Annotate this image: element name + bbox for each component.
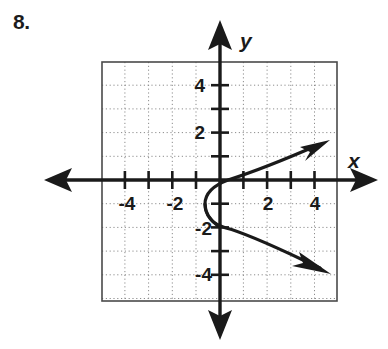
y-axis-label: y — [239, 29, 253, 52]
coordinate-plane-svg: y x -4 -2 2 4 4 2 -2 -4 — [0, 0, 388, 349]
problem-number: 8. — [13, 10, 30, 34]
y-tick-label-2: 2 — [194, 122, 205, 143]
x-tick-label-neg4: -4 — [119, 193, 136, 214]
curve-arrow-lower — [292, 252, 331, 274]
x-tick-label-2: 2 — [263, 193, 274, 214]
graph-figure: 8. — [0, 0, 388, 349]
x-tick-label-neg2: -2 — [167, 193, 184, 214]
x-tick-label-4: 4 — [310, 193, 321, 214]
x-axis-label: x — [347, 149, 361, 172]
y-tick-label-4: 4 — [194, 75, 205, 96]
y-tick-label-neg4: -4 — [195, 264, 212, 285]
y-tick-label-neg2: -2 — [195, 218, 212, 239]
